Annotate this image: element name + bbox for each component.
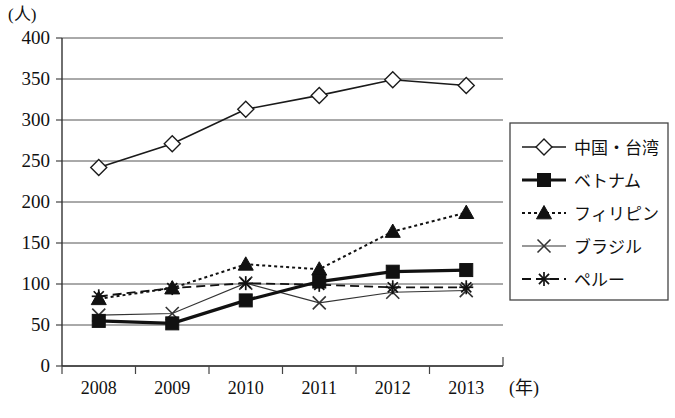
x-axis-tick-label: 2011 bbox=[302, 378, 337, 398]
data-point-open-diamond bbox=[458, 78, 474, 94]
x-axis-tick-label: 2013 bbox=[448, 378, 484, 398]
y-axis-tick-label: 250 bbox=[22, 150, 51, 171]
data-point-asterisk bbox=[459, 280, 473, 294]
y-axis-tick-label: 350 bbox=[22, 68, 51, 89]
gridlines bbox=[56, 38, 503, 366]
y-axis-tick-label: 150 bbox=[22, 232, 51, 253]
data-point-asterisk bbox=[239, 276, 253, 290]
y-axis-tick-labels: 050100150200250300350400 bbox=[22, 27, 51, 376]
x-axis-tick-labels: 200820092010201120122013 bbox=[81, 378, 485, 398]
data-point-open-diamond bbox=[311, 87, 327, 103]
data-point-filled-square bbox=[239, 294, 252, 307]
x-axis-tick-label: 2012 bbox=[375, 378, 411, 398]
data-point-open-diamond bbox=[385, 72, 401, 88]
data-point-filled-square bbox=[538, 174, 551, 187]
series-line bbox=[99, 270, 467, 323]
data-point-filled-square bbox=[460, 264, 473, 277]
data-point-asterisk bbox=[386, 280, 400, 294]
x-axis-tick-label: 2008 bbox=[81, 378, 117, 398]
data-point-filled-square bbox=[313, 275, 326, 288]
x-axis-tick-label: 2009 bbox=[154, 378, 190, 398]
legend-label: ベトナム bbox=[574, 172, 641, 191]
y-axis-unit-label: (人) bbox=[8, 5, 36, 24]
legend-label: 中国・台湾 bbox=[574, 139, 659, 158]
series-2 bbox=[92, 264, 473, 330]
chart-legend: 中国・台湾ベトナムフィリピンブラジルペルー bbox=[510, 123, 668, 300]
data-point-filled-triangle bbox=[238, 257, 253, 270]
y-axis-tick-label: 100 bbox=[22, 273, 51, 294]
series-line bbox=[99, 80, 467, 168]
data-point-open-diamond bbox=[164, 136, 180, 152]
data-point-filled-square bbox=[166, 317, 179, 330]
legend-label: ブラジル bbox=[574, 237, 642, 257]
y-axis-tick-label: 50 bbox=[31, 314, 50, 335]
data-point-open-diamond bbox=[238, 101, 254, 117]
x-axis-unit-label: (年) bbox=[509, 378, 539, 399]
y-axis-tick-label: 300 bbox=[22, 109, 51, 130]
legend-label: ペルー bbox=[574, 271, 625, 290]
legend-label: フィリピン bbox=[574, 205, 659, 224]
data-point-filled-triangle bbox=[312, 262, 327, 275]
x-axis-unit-label-group: (年) bbox=[509, 378, 539, 399]
series-line bbox=[99, 213, 467, 299]
line-chart: (人) 050100150200250300350400 20082009201… bbox=[0, 0, 675, 418]
y-axis-tick-label: 400 bbox=[22, 27, 51, 48]
data-point-filled-triangle bbox=[91, 291, 106, 304]
data-point-filled-square bbox=[92, 314, 105, 327]
y-axis-tick-label: 200 bbox=[22, 191, 51, 212]
data-series bbox=[91, 72, 475, 330]
series-1 bbox=[91, 72, 475, 176]
data-point-filled-triangle bbox=[459, 205, 474, 218]
y-axis-tick-label: 0 bbox=[41, 355, 51, 376]
chart-container: (人) 050100150200250300350400 20082009201… bbox=[0, 0, 675, 418]
x-axis-tick-label: 2010 bbox=[228, 378, 264, 398]
data-point-asterisk bbox=[537, 272, 551, 286]
data-point-open-diamond bbox=[91, 160, 107, 176]
x-axis-tick-marks bbox=[62, 366, 430, 374]
y-axis-unit-label-group: (人) bbox=[8, 5, 36, 24]
data-point-filled-square bbox=[386, 265, 399, 278]
data-point-cross-x bbox=[313, 296, 326, 309]
